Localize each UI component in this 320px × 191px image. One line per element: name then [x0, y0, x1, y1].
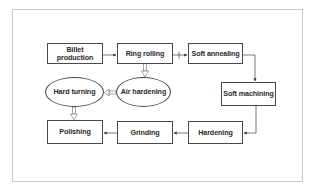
node-hard-turning: Hard turning — [45, 77, 104, 107]
node-label: Grinding — [130, 129, 159, 137]
node-label: Hardening — [198, 129, 233, 137]
node-label: Polishing — [59, 128, 90, 136]
node-air-hardening: Air hardening — [116, 77, 171, 107]
node-polishing: Polishing — [47, 120, 103, 144]
node-label: Air hardening — [121, 88, 166, 96]
node-billet-production: Billet production — [47, 43, 103, 64]
node-soft-annealing: Soft annealing — [188, 43, 243, 64]
node-hardening: Hardening — [188, 121, 243, 144]
node-ring-rolling: Ring rolling — [117, 43, 173, 64]
node-label: Soft annealing — [191, 50, 239, 58]
node-label: Ring rolling — [126, 50, 165, 58]
node-label: Soft machining — [223, 90, 274, 98]
node-soft-machining: Soft machining — [221, 82, 276, 106]
node-grinding: Grinding — [117, 121, 173, 144]
node-label: Hard turning — [54, 88, 96, 96]
node-label: Billet production — [57, 46, 94, 62]
